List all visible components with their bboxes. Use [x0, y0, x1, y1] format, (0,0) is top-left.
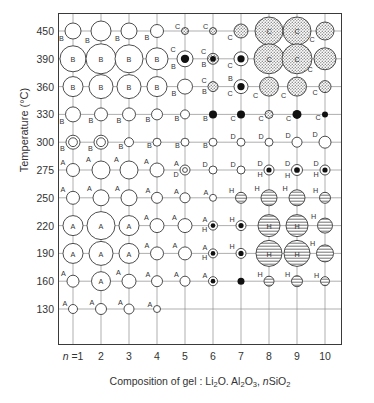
phase-label: A: [99, 250, 104, 259]
phase-label: B: [145, 33, 150, 42]
phase-label: B: [155, 55, 160, 64]
y-axis-tick: 360: [36, 81, 54, 93]
y-axis-title: Temperature (°C): [18, 50, 30, 210]
phase-label: C: [259, 114, 264, 123]
data-point: [261, 190, 277, 206]
phase-label: B: [203, 141, 208, 150]
plot-svg: BBBBCCCCCCBBBBCBCBCCCCBBBBBCBBCCCCBBBBBB…: [59, 14, 341, 344]
phase-label: C: [171, 45, 176, 54]
phase-label: D: [174, 170, 179, 179]
phase-label: A: [203, 271, 208, 280]
data-point: [237, 166, 245, 174]
phase-label: A: [174, 187, 179, 196]
data-point: [65, 23, 81, 39]
phase-label: A: [61, 158, 66, 167]
phase-label: C: [294, 55, 299, 64]
x-axis-title: Composition of gel : Li2O. Al2O3, nSiO2: [58, 375, 342, 389]
y-axis-tick: 275: [36, 164, 54, 176]
phase-label: H: [294, 250, 299, 259]
phase-label: H: [229, 186, 234, 195]
phase-label: B: [228, 74, 233, 83]
phase-label: C: [266, 27, 271, 36]
phase-label: C: [202, 76, 207, 85]
phase-label: H: [258, 170, 263, 179]
y-axis-tick: 250: [36, 192, 54, 204]
phase-label: B: [71, 55, 76, 64]
data-point: [319, 81, 331, 93]
phase-label: C: [203, 22, 208, 31]
data-point: [322, 111, 328, 117]
phase-label: B: [202, 87, 207, 96]
phase-label: C: [228, 33, 233, 42]
data-point: [208, 82, 218, 92]
data-point: [67, 164, 80, 177]
data-point: [314, 48, 336, 70]
phase-label: B: [60, 117, 65, 126]
data-point: [260, 77, 279, 96]
phase-label: C: [286, 114, 291, 123]
phase-label: H: [230, 215, 235, 224]
phase-label: B: [85, 36, 90, 45]
data-point: [234, 80, 248, 94]
phase-label: A: [63, 299, 68, 308]
phase-label: C: [175, 22, 180, 31]
phase-label: A: [99, 277, 104, 286]
data-point: [67, 275, 79, 287]
plot-area: BBBBCCCCCCBBBBCBCBCCCCBBBBBCBBCCCCBBBBBB…: [58, 13, 342, 345]
data-point: [66, 135, 80, 149]
data-point: [238, 278, 245, 285]
data-point: [177, 51, 193, 67]
data-point: [265, 138, 273, 146]
phase-label: A: [71, 250, 76, 259]
data-point: [121, 23, 137, 39]
data-point: [209, 138, 217, 146]
x-axis-tick: 10: [319, 350, 331, 362]
phase-label: B: [172, 89, 177, 98]
phase-label: A: [145, 241, 150, 250]
phase-label: B: [115, 34, 120, 43]
data-point: [181, 138, 189, 146]
data-point: [237, 110, 245, 118]
data-point: [264, 276, 274, 286]
phase-label: H: [266, 222, 271, 231]
data-point: [317, 245, 334, 262]
y-axis-tick: 390: [36, 53, 54, 65]
y-axis-tick: 450: [36, 25, 54, 37]
data-point: [120, 161, 138, 179]
phase-label: A: [114, 155, 119, 164]
phase-label: H: [311, 212, 316, 221]
data-point: [316, 22, 334, 40]
data-point: [210, 28, 217, 35]
data-point: [236, 192, 247, 203]
phase-label: C: [228, 61, 233, 70]
data-point: [180, 165, 190, 175]
data-point: [292, 276, 303, 287]
phase-label: A: [174, 270, 179, 279]
data-point: [154, 306, 161, 313]
phase-label: B: [127, 83, 132, 92]
phase-label: A: [87, 184, 92, 193]
phase-label: D: [286, 131, 291, 140]
data-point: [180, 276, 190, 286]
phase-label: C: [310, 35, 315, 44]
x-axis-tick: 8: [266, 350, 272, 362]
x-axis-tick: 5: [182, 350, 188, 362]
data-point: [178, 219, 192, 233]
data-point: [153, 138, 161, 146]
data-point: [210, 194, 217, 201]
phase-label: H: [255, 184, 260, 193]
data-point: [318, 218, 333, 233]
phase-label: A: [173, 241, 178, 250]
x-axis-tick-labels: n =12345678910: [58, 350, 342, 366]
phase-label: B: [89, 116, 94, 125]
data-point: [234, 24, 248, 38]
data-point: [321, 277, 330, 286]
x-axis-tick: 4: [154, 350, 160, 362]
phase-label: H: [294, 222, 299, 231]
data-point: [121, 190, 137, 206]
data-point: [293, 110, 302, 119]
phase-label: A: [203, 243, 208, 252]
y-axis-tick: 160: [36, 275, 54, 287]
data-point: [208, 53, 219, 64]
data-point: [320, 165, 330, 175]
